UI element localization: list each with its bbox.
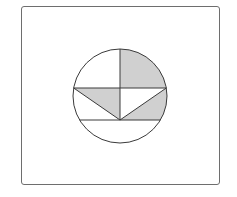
circle-diagram: [0, 0, 237, 197]
